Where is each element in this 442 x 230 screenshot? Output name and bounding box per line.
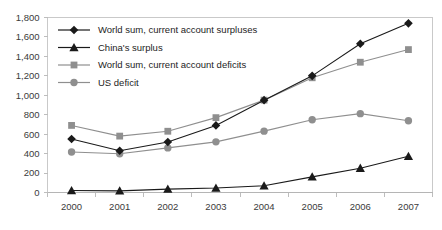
x-tick-label: 2001 xyxy=(109,201,130,212)
data-point-circle xyxy=(212,138,219,145)
legend-label: World sum, current account deficits xyxy=(98,59,246,70)
legend-label: China's surplus xyxy=(98,42,163,53)
data-point-circle xyxy=(70,79,77,86)
legend-label: World sum, current account surpluses xyxy=(98,24,258,35)
y-tick-label: 200 xyxy=(24,167,40,178)
legend-label: US deficit xyxy=(98,77,139,88)
x-tick-label: 2006 xyxy=(350,201,371,212)
x-tick-label: 2002 xyxy=(157,201,178,212)
y-tick-label: 1,000 xyxy=(16,90,40,101)
x-tick-label: 2000 xyxy=(61,201,82,212)
y-tick-label: 400 xyxy=(24,148,40,159)
data-point-circle xyxy=(68,148,75,155)
y-tick-label: 1,400 xyxy=(16,51,40,62)
y-tick-label: 800 xyxy=(24,109,40,120)
y-tick-label: 1,600 xyxy=(16,31,40,42)
data-point-square xyxy=(68,122,75,129)
data-point-square xyxy=(71,62,78,69)
y-tick-label: 1,200 xyxy=(16,70,40,81)
data-point-square xyxy=(357,59,364,66)
data-point-circle xyxy=(357,110,364,117)
data-point-square xyxy=(164,128,171,135)
chart-container: 02004006008001,0001,2001,4001,6001,800 2… xyxy=(0,0,442,230)
y-tick-label: 600 xyxy=(24,129,40,140)
data-point-circle xyxy=(308,116,315,123)
data-point-square xyxy=(405,46,412,53)
data-point-square xyxy=(116,133,123,140)
y-tick-label: 0 xyxy=(34,187,39,198)
x-tick-label: 2004 xyxy=(253,201,274,212)
line-chart: 02004006008001,0001,2001,4001,6001,800 2… xyxy=(0,0,442,230)
x-tick-label: 2005 xyxy=(302,201,323,212)
y-tick-label: 1,800 xyxy=(16,12,40,23)
data-point-circle xyxy=(405,117,412,124)
x-tick-label: 2007 xyxy=(398,201,419,212)
data-point-circle xyxy=(260,127,267,134)
x-tick-label: 2003 xyxy=(205,201,226,212)
data-point-square xyxy=(213,114,220,121)
